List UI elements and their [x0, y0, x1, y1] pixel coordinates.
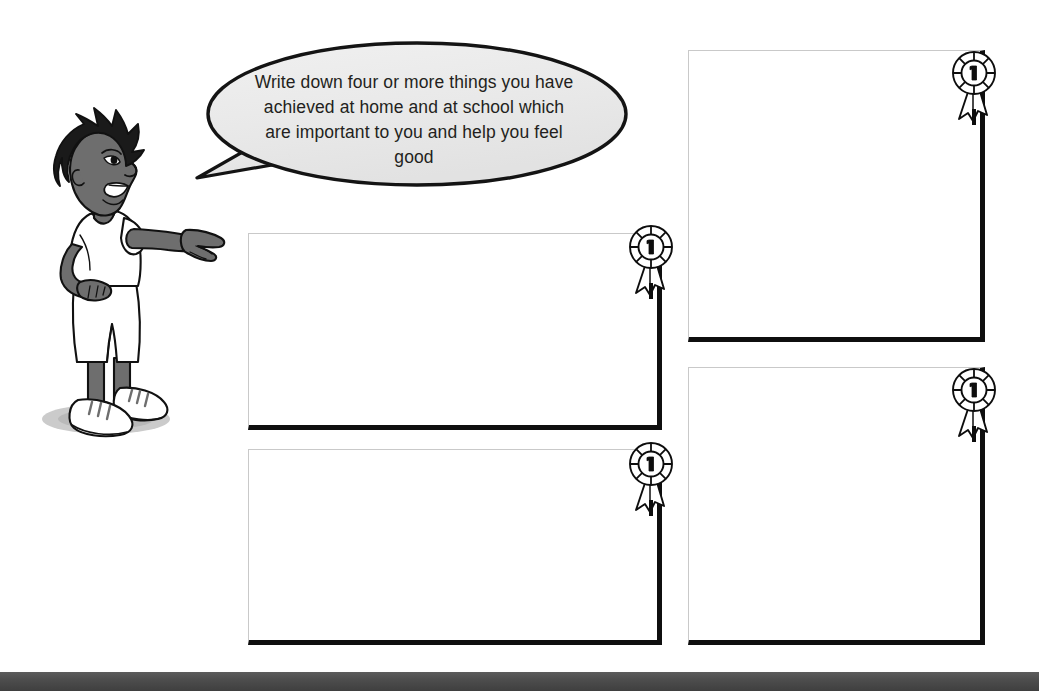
pointing-hand [181, 230, 224, 261]
achievement-box-1[interactable] [688, 50, 985, 342]
speech-bubble: Write down four or more things you have … [193, 38, 635, 218]
achievement-box-2[interactable] [248, 233, 662, 430]
speech-bubble-text: Write down four or more things you have … [249, 70, 579, 170]
worksheet-page: Write down four or more things you have … [0, 0, 1039, 691]
footer-band [0, 672, 1039, 691]
achievement-box-3[interactable] [688, 367, 985, 645]
hand-back [77, 280, 111, 300]
achievement-box-4[interactable] [248, 449, 662, 645]
